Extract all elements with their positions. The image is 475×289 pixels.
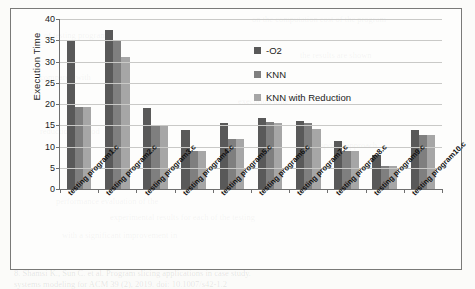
y-tick-label: 20 [45,99,55,109]
y-tick-mark [56,104,60,105]
chart-legend: -O2KNNKNN with Reduction [254,45,434,116]
legend-swatch-icon [254,71,261,78]
legend-label: -O2 [266,45,282,56]
bar [67,40,75,189]
y-tick-mark [56,62,60,63]
legend-item: KNN with Reduction [254,92,434,103]
gridline [60,40,442,41]
y-tick-label: 10 [45,142,55,152]
y-tick-mark [56,83,60,84]
legend-swatch-icon [254,94,261,101]
legend-label: KNN with Reduction [266,92,351,103]
y-axis-tick-labels: 0510152025303540 [33,19,55,189]
y-tick-mark [56,168,60,169]
y-tick-label: 35 [45,35,55,45]
gridline [60,125,442,126]
y-tick-label: 30 [45,57,55,67]
gridline [60,19,442,20]
y-tick-label: 25 [45,78,55,88]
chart-plot-wrapper: Execution Time 0510152025303540 testing … [11,9,463,271]
y-tick-label: 5 [50,163,55,173]
x-tick-mark [442,189,443,193]
y-tick-mark [56,125,60,126]
y-tick-label: 0 [50,184,55,194]
bar [105,30,113,189]
y-tick-mark [56,19,60,20]
y-tick-mark [56,147,60,148]
y-tick-label: 40 [45,14,55,24]
legend-item: KNN [254,69,434,80]
bar [113,40,121,189]
legend-label: KNN [266,69,286,80]
bleed-text: systems modeling for ACM 39 (2), 2019. d… [14,279,227,289]
y-tick-mark [56,40,60,41]
x-axis-tick-labels: testing program1.ctesting program2.ctest… [59,191,441,263]
legend-swatch-icon [254,47,261,54]
legend-item: -O2 [254,45,434,56]
chart-figure-frame: Execution Time 0510152025303540 testing … [10,8,462,270]
y-tick-label: 15 [45,120,55,130]
